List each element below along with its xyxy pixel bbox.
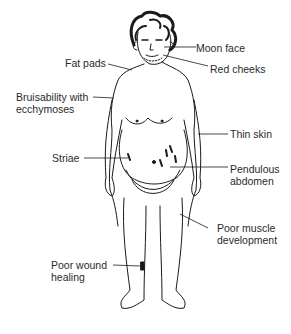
label-thin-skin: Thin skin bbox=[230, 128, 272, 140]
label-striae: Striae bbox=[52, 152, 79, 164]
label-fat-pads: Fat pads bbox=[65, 57, 106, 69]
label-poor-muscle-line2: development bbox=[217, 234, 277, 246]
left-leg bbox=[121, 198, 146, 308]
label-red-cheeks: Red cheeks bbox=[210, 63, 265, 75]
wound-mark bbox=[141, 262, 144, 270]
right-arm bbox=[184, 100, 201, 196]
label-poor-wound: Poor wound healing bbox=[51, 259, 107, 283]
label-bruisability: Bruisability with ecchymoses bbox=[16, 91, 88, 115]
label-poor-muscle-line1: Poor muscle bbox=[217, 222, 277, 234]
label-poor-wound-line1: Poor wound bbox=[51, 259, 107, 271]
label-poor-wound-line2: healing bbox=[51, 271, 107, 283]
leader-poor-wound bbox=[113, 265, 140, 266]
leader-fat-pads bbox=[108, 64, 132, 70]
torso-outline bbox=[109, 64, 144, 226]
label-poor-muscle: Poor muscle development bbox=[217, 222, 277, 246]
label-pendulous-line1: Pendulous bbox=[230, 163, 280, 175]
label-bruisability-line1: Bruisability with bbox=[16, 91, 88, 103]
leader-red-cheeks bbox=[163, 55, 208, 66]
label-bruisability-line2: ecchymoses bbox=[16, 103, 88, 115]
leader-bruisability bbox=[93, 97, 114, 98]
label-pendulous-line2: abdomen bbox=[230, 175, 280, 187]
label-pendulous-abdomen: Pendulous abdomen bbox=[230, 163, 280, 187]
label-moon-face: Moon face bbox=[196, 42, 245, 54]
leader-poor-muscle bbox=[180, 214, 208, 228]
